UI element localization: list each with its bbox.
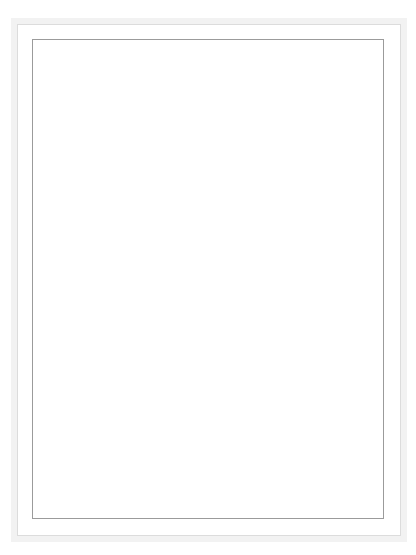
z-value-3: 3: [347, 193, 384, 219]
z-value-21: 21: [347, 441, 384, 469]
label-terminal-bronchioles: Terminal bronchioles: [86, 291, 196, 321]
arrow-bronchioles-to-terminal: [141, 259, 142, 287]
t-label-2: T2: [294, 447, 338, 465]
z-value-22: 22: [347, 471, 384, 499]
t-label-3-sub: 3: [317, 425, 322, 435]
label-alveolar-sacs-line2: sacs: [130, 516, 156, 519]
label-alveolar-sacs-line1: Alveolar: [120, 501, 165, 515]
t-label-3: T3: [294, 417, 338, 435]
z-value-0: 0: [347, 74, 384, 105]
z-value-20: 20: [347, 411, 384, 439]
label-respiratory-bronchioles-line2: bronchioles: [132, 362, 196, 376]
t-label-0: T: [294, 505, 338, 519]
label-alveolar-sacs: Alveolar sacs: [90, 501, 196, 519]
label-respiratory-bronchioles-line1: Respiratory: [132, 347, 196, 361]
zone-label-transitional-respiratory: Transitional and respiratory zones: [32, 319, 81, 519]
z-value-17: 17: [347, 321, 384, 349]
z-value-23: 23: [347, 501, 384, 519]
figure-page: Conducting zone Transitional and respira…: [0, 0, 416, 555]
z-value-5: 5: [347, 249, 384, 275]
z-value-2: 2: [347, 155, 384, 191]
label-bronchi: Bronchi: [96, 117, 196, 132]
zone-label-conducting-text: Conducting zone: [49, 165, 65, 259]
t-label-1: T1: [294, 477, 338, 495]
t-label-0-base: T: [312, 505, 320, 519]
z-value-19: 19: [347, 381, 384, 409]
arrow-bronchi-to-bronchioles: [141, 135, 142, 235]
z-value-16: 16: [347, 301, 384, 319]
respiratory-bronchioles-brace: [199, 320, 213, 409]
z-value-4: 4: [347, 221, 384, 247]
label-trachea: Trachea: [107, 79, 197, 94]
z-value-1: 1: [347, 109, 384, 151]
zone-label-transitional-line2: respiratory zones: [32, 411, 137, 427]
label-bronchioles: Bronchioles: [86, 241, 196, 256]
z-value-18: 18: [347, 351, 384, 379]
label-terminal-bronchioles-line1: Terminal: [117, 291, 164, 305]
t-label-1-sub: 1: [317, 485, 322, 495]
label-alveolar-ducts-line2: ducts: [128, 454, 158, 468]
label-alveolar-ducts: Alveolar ducts: [90, 439, 196, 469]
t-label-2-sub: 2: [317, 455, 322, 465]
label-terminal-bronchioles-line2: bronchioles: [109, 306, 173, 320]
zone-label-conducting: Conducting zone: [32, 105, 81, 319]
z-column-header: Z: [347, 43, 384, 70]
airway-generations-diagram: Conducting zone Transitional and respira…: [32, 39, 384, 519]
alveolar-ducts-brace: [199, 410, 213, 499]
label-respiratory-bronchioles: Respiratory bronchioles: [90, 347, 196, 377]
label-alveolar-ducts-line1: Alveolar: [120, 439, 165, 453]
